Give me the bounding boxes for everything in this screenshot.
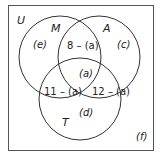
- set-t-label: T: [62, 116, 70, 129]
- region-t-only: (d): [79, 107, 93, 118]
- universe-label: U: [17, 14, 25, 27]
- region-m-t: 11 – (a): [44, 86, 82, 97]
- region-outside: (f): [136, 131, 147, 142]
- set-m-label: M: [51, 22, 61, 35]
- region-m-a: 8 – (a): [67, 40, 99, 51]
- region-a-only: (c): [117, 39, 130, 50]
- region-all-three: (a): [79, 68, 93, 79]
- region-a-t: 12 – (a): [92, 86, 130, 97]
- region-m-only: (e): [33, 39, 47, 50]
- venn-diagram: U M A T (e) (c) (d) 8 – (a) 11 – (a) 12 …: [0, 0, 160, 157]
- set-a-label: A: [102, 22, 111, 35]
